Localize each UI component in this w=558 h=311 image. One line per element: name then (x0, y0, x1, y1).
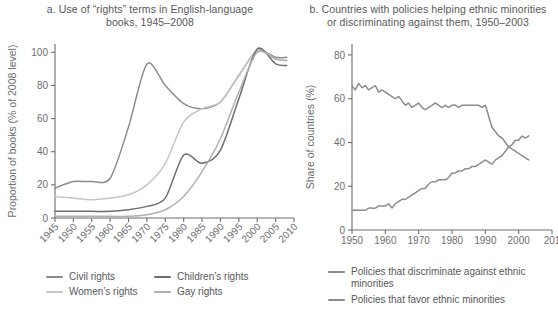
panel-b-title: b. Countries with policies helping ethni… (300, 3, 556, 29)
x-tick-label: 1950 (56, 221, 80, 245)
panel-b-svg: 020406080195019601970198019902000201Shar… (300, 32, 556, 264)
x-tick-label: 1960 (92, 221, 116, 245)
legend-label-childrens-rights: Children’s rights (177, 271, 249, 283)
legend-row: Women’s rights Gay rights (46, 286, 262, 298)
x-tick-label: 2010 (276, 221, 300, 245)
legend-label-civil-rights: Civil rights (69, 271, 115, 283)
panel-b-plot: 020406080195019601970198019902000201Shar… (300, 32, 556, 264)
panel-a: a. Use of “rights” terms in English-lang… (0, 0, 300, 311)
x-tick-label: 1995 (221, 221, 245, 245)
legend-label-discriminate: Policies that discriminate against ethni… (351, 266, 558, 290)
y-tick-label: 40 (334, 137, 346, 148)
panel-a-title: a. Use of “rights” terms in English-lang… (0, 3, 300, 29)
x-tick-label: 1955 (74, 221, 98, 245)
legend-swatch-civil-rights (46, 276, 63, 278)
x-tick-label: 1970 (408, 235, 431, 246)
x-tick-label: 1980 (166, 221, 190, 245)
legend-item-childrens-rights: Children’s rights (154, 271, 262, 283)
x-tick-label: 201 (544, 235, 558, 246)
series-line-policies-that-discriminate-against-ethnic-minorities (352, 83, 529, 160)
legend-swatch-gay-rights (154, 291, 171, 293)
series-line-children-s-rights (55, 48, 287, 211)
series-line-women-s-rights (55, 50, 287, 200)
legend-swatch-childrens-rights (154, 276, 171, 278)
legend-label-favor: Policies that favor ethnic minorities (351, 294, 505, 306)
panel-b: b. Countries with policies helping ethni… (300, 0, 556, 311)
y-tick-label: 40 (37, 146, 49, 157)
legend-item-womens-rights: Women’s rights (46, 286, 154, 298)
panel-b-title-line1: b. Countries with policies helping ethni… (300, 3, 556, 16)
x-tick-label: 1985 (184, 221, 208, 245)
x-tick-label: 1975 (147, 221, 171, 245)
legend-label-womens-rights: Women’s rights (69, 286, 138, 298)
panel-a-plot: 0204060801001945195019551960196519701975… (0, 32, 300, 264)
panel-a-title-line2: books, 1945–2008 (0, 16, 300, 29)
y-axis-label: Proportion of books (% of 2008 level) (6, 45, 18, 218)
x-tick-label: 1980 (441, 235, 464, 246)
y-tick-label: 0 (339, 225, 345, 236)
x-tick-label: 1965 (111, 221, 135, 245)
panel-b-legend: Policies that discriminate against ethni… (328, 266, 558, 310)
panel-a-title-line1: a. Use of “rights” terms in English-lang… (0, 3, 300, 16)
legend-item-favor: Policies that favor ethnic minorities (328, 294, 558, 306)
y-tick-label: 80 (37, 80, 49, 91)
x-tick-label: 2005 (258, 221, 282, 245)
legend-item-civil-rights: Civil rights (46, 271, 154, 283)
series-line-policies-that-favor-ethnic-minorities (352, 136, 529, 210)
x-tick-label: 2000 (508, 235, 531, 246)
y-tick-label: 60 (334, 93, 346, 104)
x-tick-label: 1990 (474, 235, 497, 246)
x-tick-label: 1970 (129, 221, 153, 245)
legend-row: Civil rights Children’s rights (46, 271, 262, 283)
legend-swatch-womens-rights (46, 291, 63, 293)
y-tick-label: 20 (334, 181, 346, 192)
y-tick-label: 60 (37, 113, 49, 124)
panel-a-legend: Civil rights Children’s rights Women’s r… (46, 271, 262, 301)
x-tick-label: 1990 (203, 221, 227, 245)
legend-item-gay-rights: Gay rights (154, 286, 262, 298)
legend-swatch-favor (328, 299, 345, 301)
y-tick-label: 20 (37, 179, 49, 190)
y-axis-label: Share of countries (%) (304, 85, 316, 189)
x-tick-label: 1945 (37, 221, 61, 245)
series-line-civil-rights (55, 50, 287, 188)
legend-label-gay-rights: Gay rights (177, 286, 223, 298)
legend-item-discriminate: Policies that discriminate against ethni… (328, 266, 558, 290)
series-line-gay-rights (55, 51, 287, 216)
panel-b-title-line2: or discriminating against them, 1950–200… (300, 16, 556, 29)
x-tick-label: 1960 (374, 235, 397, 246)
y-tick-label: 0 (42, 213, 48, 224)
panel-a-svg: 0204060801001945195019551960196519701975… (0, 32, 300, 264)
y-tick-label: 80 (334, 50, 346, 61)
legend-swatch-discriminate (328, 271, 345, 273)
y-tick-label: 100 (31, 47, 48, 58)
x-tick-label: 2000 (239, 221, 263, 245)
x-tick-label: 1950 (341, 235, 364, 246)
